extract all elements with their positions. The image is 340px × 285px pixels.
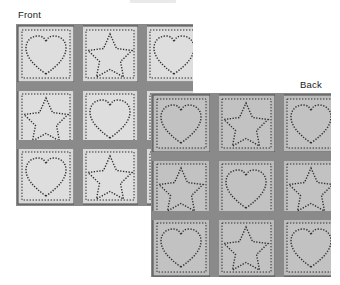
cropped-title-fragment: [130, 0, 176, 3]
back-block-r3c1-stitching: [157, 223, 206, 272]
back-block-r3c2: [218, 219, 275, 276]
back-sashing-h2: [151, 211, 331, 220]
front-sashing-v1: [74, 24, 83, 206]
back-block-r1c3: [283, 95, 331, 152]
front-block-r1c2-stitching: [86, 30, 134, 78]
front-block-r1c1-stitching: [22, 30, 70, 78]
back-block-r2c2-stitching: [222, 164, 271, 213]
quilt-diagram-stage: Front Back: [0, 0, 340, 285]
back-block-r2c2: [218, 160, 275, 217]
back-block-r3c3: [283, 219, 331, 276]
front-block-r3c1: [18, 148, 74, 204]
front-label: Front: [18, 10, 41, 20]
back-block-r1c1-stitching: [157, 99, 206, 148]
front-block-r3c2-stitching: [86, 152, 134, 200]
back-block-r3c3-stitching: [287, 223, 331, 272]
front-block-r3c1-stitching: [22, 152, 70, 200]
back-sashing-v1: [210, 93, 219, 277]
back-block-r1c3-stitching: [287, 99, 331, 148]
front-block-r1c3: [146, 26, 193, 82]
back-block-r1c1: [153, 95, 210, 152]
front-block-r2c1: [18, 90, 74, 146]
back-block-r3c1: [153, 219, 210, 276]
front-block-r1c2: [82, 26, 138, 82]
front-sashing-v2: [138, 24, 147, 206]
back-label: Back: [300, 80, 322, 90]
back-block-r2c1: [153, 160, 210, 217]
front-block-r2c1-stitching: [22, 94, 70, 142]
front-block-r2c2: [82, 90, 138, 146]
back-sashing-v2: [275, 93, 284, 277]
back-block-r2c3-stitching: [287, 164, 331, 213]
back-quilt-graphic: [151, 93, 331, 277]
back-quilt-panel[interactable]: [151, 93, 331, 277]
front-block-r1c1: [18, 26, 74, 82]
back-sashing-h1: [151, 152, 331, 161]
front-block-r2c2-stitching: [86, 94, 134, 142]
back-block-r1c2: [218, 95, 275, 152]
front-sashing-h1: [16, 82, 193, 91]
back-block-r2c3: [283, 160, 331, 217]
front-block-r3c2: [82, 148, 138, 204]
